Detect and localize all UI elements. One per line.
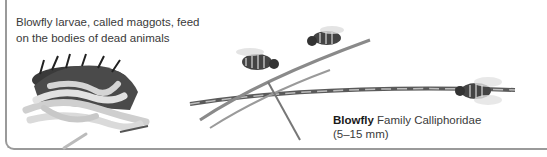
fly-icon: [307, 26, 344, 46]
species-family: Family Calliphoridae: [377, 114, 481, 126]
fly-icon: [236, 48, 279, 70]
species-caption: Blowfly Family Calliphoridae (5–15 mm): [333, 113, 481, 141]
species-name: Blowfly: [333, 114, 374, 126]
species-size: (5–15 mm): [333, 127, 481, 141]
